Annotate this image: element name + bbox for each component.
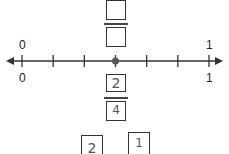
top-fraction-bar [104, 23, 128, 25]
answer-box-2[interactable]: 1 [128, 132, 150, 154]
bottom-numerator-box[interactable]: 2 [106, 74, 126, 92]
answer-box-1[interactable]: 2 [81, 135, 103, 154]
bottom-label-1: 1 [206, 71, 213, 85]
top-denominator-box[interactable] [106, 27, 126, 47]
answer-box-1-value: 2 [82, 136, 102, 154]
answer-box-2-value: 1 [129, 133, 149, 149]
number-line-point[interactable] [112, 58, 119, 65]
number-line [0, 50, 229, 72]
bottom-numerator: 2 [107, 75, 125, 90]
right-arrow-icon [215, 57, 223, 65]
bottom-denominator-box[interactable]: 4 [106, 101, 126, 121]
left-arrow-icon [6, 57, 14, 65]
bottom-fraction-bar [104, 97, 128, 99]
top-numerator-box[interactable] [106, 0, 126, 20]
bottom-denominator: 4 [107, 102, 125, 116]
bottom-label-0: 0 [19, 71, 26, 85]
